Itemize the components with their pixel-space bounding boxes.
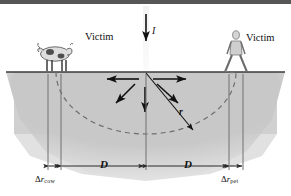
subscript-cow: cow — [44, 178, 55, 184]
person-figure — [225, 31, 247, 73]
delta-r-cow-label: Δrcow — [35, 175, 55, 184]
cow-figure — [38, 43, 73, 71]
distance-label-left: D — [100, 159, 108, 170]
distance-label-right: D — [184, 159, 192, 170]
lightning-step-potential-figure: Victim Victim I r D D Δrcow Δrpet — [0, 0, 291, 196]
subscript-pet: pet — [230, 178, 238, 184]
victim-label-right: Victim — [246, 33, 275, 44]
current-label: I — [152, 26, 155, 36]
delta-r-pet-label: Δrpet — [221, 175, 238, 184]
victim-label-left: Victim — [85, 32, 114, 43]
radius-label: r — [179, 108, 183, 118]
figure-canvas — [0, 0, 291, 196]
